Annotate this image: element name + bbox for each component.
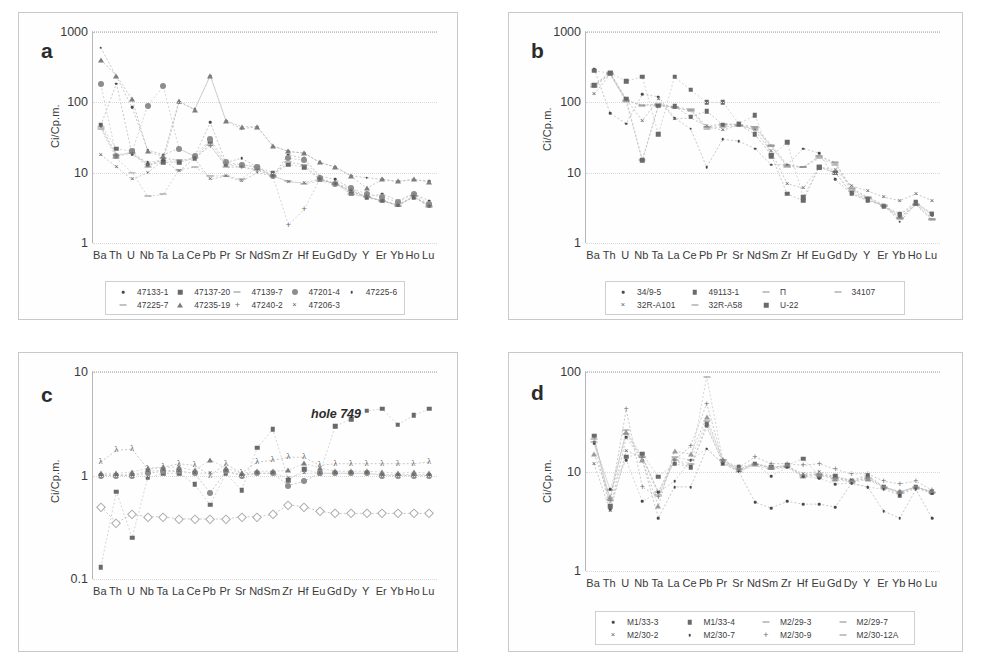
x-axis-tick-label: Sm xyxy=(762,577,779,589)
panel-b-ylabel: Ci/Cp.m. xyxy=(541,107,553,151)
y-axis-tick-label: 1 xyxy=(81,469,88,483)
legend-marker-icon xyxy=(832,617,854,626)
data-point xyxy=(144,196,151,197)
legend-item: ×47206-3 xyxy=(284,298,341,311)
legend-item: 47137-20 xyxy=(169,285,226,298)
data-point xyxy=(704,109,709,114)
legend-marker-icon: + xyxy=(755,630,777,639)
panel-a: a Ci/Cp.m. ++++++++++++++++++++++×××××××… xyxy=(18,12,458,320)
legend-item: M2/30-12A xyxy=(832,628,909,641)
gridline xyxy=(586,472,940,473)
y-axis-tick-label: 10 xyxy=(74,365,88,379)
legend-item: ×M2/30-2 xyxy=(602,628,679,641)
legend-label: U-22 xyxy=(780,300,799,310)
data-point xyxy=(639,456,646,457)
legend-label: 47137-20 xyxy=(194,287,230,297)
data-point xyxy=(607,499,614,500)
x-axis-tick-label: Nd xyxy=(249,585,263,597)
data-point xyxy=(769,152,774,157)
data-point: + xyxy=(897,479,902,488)
y-axis-tick-label: 1000 xyxy=(553,25,581,39)
x-axis-tick-label: La xyxy=(172,585,184,597)
data-point xyxy=(593,442,596,445)
data-point xyxy=(848,481,855,482)
x-axis-tick-label: Gd xyxy=(827,249,842,261)
x-axis-tick-label: Zr xyxy=(781,249,791,261)
data-point xyxy=(866,486,869,489)
y-axis-tick-label: 10 xyxy=(74,166,88,180)
x-axis-tick-label: U xyxy=(621,249,629,261)
legend-marker-icon xyxy=(832,630,854,639)
gridline xyxy=(93,372,437,373)
legend-marker-icon: × xyxy=(612,300,634,309)
panel-a-legend: 47133-147137-2047139-747201-447225-64722… xyxy=(105,281,405,315)
data-point xyxy=(816,156,823,157)
data-point xyxy=(625,436,628,439)
x-axis-tick-label: Pb xyxy=(203,249,216,261)
data-point: λ xyxy=(412,460,416,468)
x-axis-tick-label: Yb xyxy=(892,577,905,589)
data-point xyxy=(896,492,903,493)
data-point: λ xyxy=(333,460,337,468)
data-point xyxy=(818,477,821,480)
gridline xyxy=(586,32,940,33)
legend-label: 47235-19 xyxy=(194,300,230,310)
data-point: × xyxy=(161,157,165,165)
x-axis-tick-label: Pr xyxy=(716,249,727,261)
data-point xyxy=(768,145,775,146)
legend-item: +M2/30-9 xyxy=(755,628,832,641)
data-point xyxy=(914,201,919,206)
x-axis-tick-label: Pb xyxy=(203,585,216,597)
panel-c-letter: c xyxy=(41,383,53,407)
data-point: + xyxy=(223,160,228,169)
y-axis-tick-label: 1000 xyxy=(60,25,88,39)
data-point xyxy=(817,165,822,170)
data-point xyxy=(834,483,837,486)
legend-marker-icon xyxy=(169,287,191,296)
x-axis-tick-label: Lu xyxy=(422,585,434,597)
x-axis-tick-label: Eu xyxy=(812,577,825,589)
legend-marker-icon xyxy=(679,630,701,639)
x-axis-tick-label: Ta xyxy=(652,249,664,261)
data-point xyxy=(286,162,291,167)
data-point: × xyxy=(239,178,243,186)
data-point: × xyxy=(161,467,165,475)
data-point xyxy=(671,460,678,461)
data-point: × xyxy=(930,197,934,205)
x-axis-tick-label: Pr xyxy=(716,577,727,589)
panel-d-letter: d xyxy=(531,381,544,405)
data-point xyxy=(114,489,119,494)
legend-marker-icon xyxy=(284,287,306,296)
data-point xyxy=(770,475,773,478)
gridline xyxy=(93,243,437,244)
x-axis-tick-label: La xyxy=(667,249,679,261)
legend-item: 47139-7 xyxy=(226,285,283,298)
data-point xyxy=(832,163,839,164)
hole-annotation: hole 749 xyxy=(311,407,361,421)
data-point: λ xyxy=(130,445,134,453)
data-point xyxy=(898,213,903,218)
legend-marker-icon xyxy=(827,287,849,296)
x-axis-tick-label: Ce xyxy=(187,585,201,597)
series-lines xyxy=(93,32,437,243)
data-point: × xyxy=(396,202,400,210)
x-axis-tick-label: Zr xyxy=(781,577,791,589)
data-point xyxy=(208,503,213,508)
x-axis-tick-label: Y xyxy=(362,249,369,261)
data-point xyxy=(591,439,598,440)
legend-item: 34107 xyxy=(827,285,899,298)
data-point xyxy=(191,167,198,168)
data-point xyxy=(785,140,790,145)
legend-marker-icon xyxy=(112,300,134,309)
data-point xyxy=(657,517,660,520)
x-axis-tick-label: Hf xyxy=(797,577,808,589)
legend-item: ×32R-A101 xyxy=(612,298,684,311)
x-axis-tick-label: Sm xyxy=(264,585,281,597)
legend-item: 47225-7 xyxy=(112,298,169,311)
data-point xyxy=(285,155,291,161)
data-point xyxy=(591,451,597,456)
data-point xyxy=(411,413,416,418)
data-point: + xyxy=(239,163,244,172)
panel-b-plot-area: ×××××××××××××××××××××× 1101001000 xyxy=(585,31,940,243)
data-point: + xyxy=(752,452,757,461)
